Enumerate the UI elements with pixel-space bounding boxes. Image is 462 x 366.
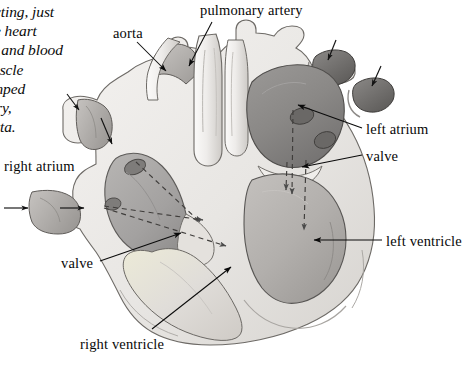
caption-line-3: ns and blood <box>0 40 63 59</box>
label-aorta: aorta <box>113 25 143 42</box>
caption-line-7: rta. <box>0 117 16 136</box>
pulmonary-trunk <box>194 34 222 166</box>
caption-line-1: cting, just <box>0 2 54 21</box>
label-left-atrium: left atrium <box>366 121 428 138</box>
caption-line-5: mped <box>0 79 25 98</box>
label-left-ventricle: left ventricle <box>386 233 462 250</box>
label-valve-right: valve <box>366 148 398 165</box>
label-pulmonary-artery: pulmonary artery <box>200 2 303 19</box>
caption-line-6: ry, <box>0 98 12 117</box>
label-valve-left: valve <box>61 255 93 272</box>
label-right-ventricle: right ventricle <box>80 336 164 353</box>
caption-line-2: e heart <box>0 21 37 40</box>
label-right-atrium: right atrium <box>4 158 75 175</box>
caption-line-4: uscle <box>0 60 23 79</box>
